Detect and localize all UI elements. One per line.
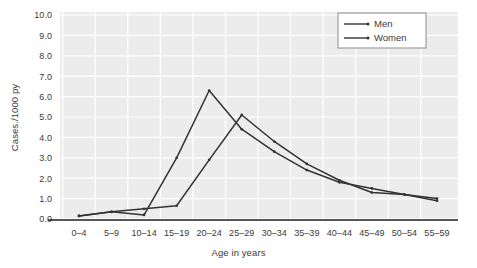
y-tick-label: 3.0: [39, 153, 52, 163]
legend-label-men: Men: [374, 18, 392, 29]
data-point: [371, 191, 374, 194]
y-tick-label: 7.0: [39, 72, 52, 82]
data-point: [143, 214, 146, 217]
data-point: [78, 215, 81, 218]
data-point: [273, 140, 276, 143]
data-point: [436, 197, 439, 200]
data-point: [305, 169, 308, 172]
y-tick-label: 1.0: [39, 194, 52, 204]
y-tick-label: 8.0: [39, 51, 52, 61]
legend-label-women: Women: [374, 32, 407, 43]
x-tick-label: 50–54: [392, 228, 417, 238]
chart-legend: MenWomen: [338, 13, 426, 48]
x-tick-label: 0–4: [71, 228, 86, 238]
x-tick-label: 40–44: [327, 228, 352, 238]
data-point: [175, 156, 178, 159]
data-point: [110, 211, 113, 214]
data-point: [371, 187, 374, 190]
data-point: [208, 89, 211, 92]
data-point: [240, 128, 243, 131]
x-tick-label: 5–9: [104, 228, 119, 238]
y-tick-label: 9.0: [39, 31, 52, 41]
y-axis-title: Cases./1000 py: [9, 58, 20, 178]
x-axis-tick-labels: 0–45–910–1415–1920–2425–2930–3435–3940–4…: [71, 228, 449, 238]
data-point: [273, 150, 276, 153]
x-axis-title: Age in years: [0, 247, 477, 258]
chart-figure: 0.01.02.03.04.05.06.07.08.09.010.0 0–45–…: [0, 0, 477, 268]
x-tick-label: 15–19: [164, 228, 189, 238]
x-tick-label: 25–29: [229, 228, 254, 238]
x-tick-label: 35–39: [294, 228, 319, 238]
x-tick-label: 10–14: [131, 228, 156, 238]
y-tick-label: 2.0: [39, 174, 52, 184]
y-tick-label: 5.0: [39, 112, 52, 122]
x-tick-label: 20–24: [197, 228, 222, 238]
data-point: [208, 158, 211, 161]
data-point: [240, 114, 243, 117]
y-tick-label: 10.0: [34, 10, 52, 20]
data-point: [143, 207, 146, 210]
data-point: [403, 193, 406, 196]
x-tick-label: 30–34: [262, 228, 287, 238]
data-point: [305, 163, 308, 166]
x-tick-label: 55–59: [424, 228, 449, 238]
y-tick-label: 4.0: [39, 133, 52, 143]
line-chart: 0.01.02.03.04.05.06.07.08.09.010.0 0–45–…: [0, 0, 477, 268]
data-point: [175, 204, 178, 207]
y-tick-label: 6.0: [39, 92, 52, 102]
x-tick-label: 45–49: [359, 228, 384, 238]
data-point: [338, 179, 341, 182]
y-axis-tick-labels: 0.01.02.03.04.05.06.07.08.09.010.0: [34, 10, 52, 224]
